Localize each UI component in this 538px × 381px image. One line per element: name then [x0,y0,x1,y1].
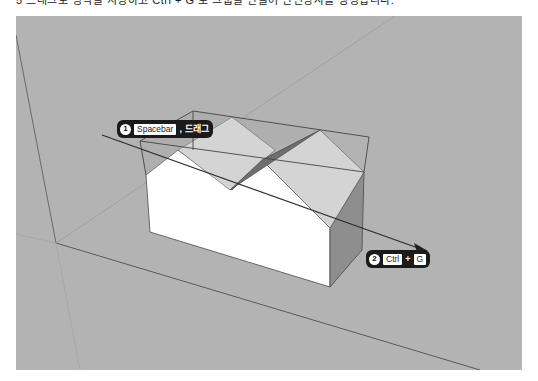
blue-axis-line [16,35,56,243]
plus-separator: + [405,254,410,265]
ctrl-key: Ctrl [383,254,402,265]
callout-step-2: 2 Ctrl + G [366,250,430,268]
scene-canvas[interactable] [16,16,522,370]
step-number-2-icon: 2 [369,254,380,265]
drag-action-label: 드래그 [185,124,209,135]
callout-step-1: 1 Spacebar , 드래그 [117,120,213,138]
step-number-1-icon: 1 [120,124,131,135]
dotted-axis-line-left [16,234,56,243]
caption-text: 5 드래그로 영역을 지정하고 Ctrl + G 로 그룹을 만들어 단면상자를… [16,0,522,6]
dotted-axis-line-down [56,243,80,370]
separator-comma: , [179,124,182,135]
caption-strip: 5 드래그로 영역을 지정하고 Ctrl + G 로 그룹을 만들어 단면상자를… [16,0,522,7]
spacebar-key: Spacebar [134,124,176,135]
g-key: G [414,254,427,265]
3d-viewport[interactable]: 1 Spacebar , 드래그 2 Ctrl + G [16,16,522,370]
